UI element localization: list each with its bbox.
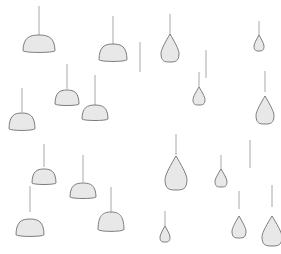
- dome-shape: [9, 113, 35, 130]
- dome-shape: [82, 105, 108, 121]
- scene-canvas: [0, 0, 281, 254]
- dome-shape: [99, 44, 127, 61]
- hanging-shapes-svg: [0, 0, 281, 254]
- dome-shape: [70, 183, 96, 199]
- dome-shape: [32, 169, 56, 185]
- dome-shape: [23, 35, 55, 52]
- dome-shape: [98, 212, 124, 231]
- dome-shape: [16, 219, 44, 236]
- dome-shape: [55, 90, 79, 106]
